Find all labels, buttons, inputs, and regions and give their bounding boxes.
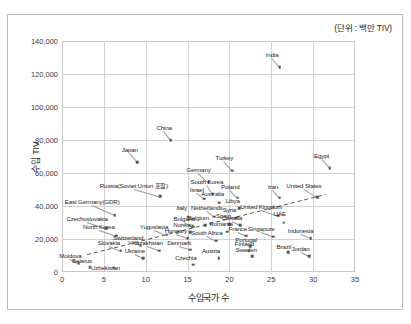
data-point [272,235,275,238]
data-point [278,66,281,69]
data-point [204,224,207,227]
point-label: Jordan [292,246,310,252]
x-tick-label: 0 [60,275,64,284]
unit-note: (단위 : 백만 TIV) [334,21,392,33]
x-tick-label: 20 [225,275,233,284]
y-tick-label: 140,000 [31,37,58,46]
point-label: France [229,225,247,231]
y-tick-label: 100,000 [31,103,58,112]
data-point [217,257,220,260]
data-point [309,237,312,240]
point-label: Japan [122,147,138,153]
point-label: Sweden [235,247,256,253]
data-point [316,196,319,199]
point-label: UAE [274,211,286,217]
point-label: Ukraine [125,248,145,254]
scatter-plot-area: IndiaEgyptChinaJapanTurkeyGermanySouth K… [62,41,355,272]
data-point [215,239,218,242]
data-point [231,169,234,172]
point-label: Kazakhstan [132,240,163,246]
x-axis-label: 수입국가 수 [62,291,355,304]
data-point [203,197,206,200]
point-label: United States [286,182,321,188]
data-point [251,255,254,258]
point-label: Singapore [248,226,275,232]
data-point [170,139,173,142]
data-point [287,251,290,254]
data-point [113,267,116,270]
point-label: Czechia [175,255,196,261]
point-label: Austria [202,248,220,254]
point-label: East Germany(GDR) [65,199,120,205]
point-label: North Korea [83,224,115,230]
point-label: Belarus [72,258,92,264]
data-point [308,255,311,258]
x-tick-label: 10 [142,275,150,284]
data-point [136,161,139,164]
x-tick-label: 25 [267,275,275,284]
y-tick-label: 120,000 [31,70,58,79]
point-label: South Korea [190,178,223,184]
data-point [329,167,332,170]
point-label: Poland [221,183,239,189]
data-point [158,249,161,252]
data-point [142,257,145,260]
point-label: Libya [226,197,240,203]
point-label: Indonesia [288,228,314,234]
point-label: Hungary [165,228,187,234]
point-label: Germany [186,167,210,173]
data-point [192,263,195,266]
point-label: Uzbekistan [91,265,120,271]
x-tick-label: 35 [351,275,359,284]
point-label: Czechoslovakia [66,215,107,221]
data-point [278,196,281,199]
point-label: Russia(Soviet Union 포함) [100,182,168,188]
y-tick-label: 20,000 [35,235,58,244]
point-label: Denmark [167,240,191,246]
y-axis-label: 수입 TIV [29,141,42,172]
x-tick-label: 30 [309,275,317,284]
chart-figure: (단위 : 백만 TIV) IndiaEgyptChinaJapanTurkey… [7,14,403,310]
data-point [283,221,286,224]
point-label: Slovakia [98,239,120,245]
point-label: Italy [176,205,187,211]
point-label: Iran [268,183,278,189]
point-label: South Africa [191,229,223,235]
point-label: India [266,52,279,58]
point-label: China [156,125,171,131]
point-label: Turkey [216,155,234,161]
point-label: Australia [201,191,224,197]
point-label: Brazil [277,244,292,250]
y-tick-label: 40,000 [35,202,58,211]
data-point [119,249,122,252]
data-point [113,214,116,217]
x-tick-label: 15 [183,275,191,284]
point-label: Netherlands [191,205,223,211]
point-label: Egypt [314,153,329,159]
data-point [189,248,192,251]
y-tick-label: 0 [54,268,58,277]
x-tick-label: 5 [102,275,106,284]
data-point [159,195,162,198]
